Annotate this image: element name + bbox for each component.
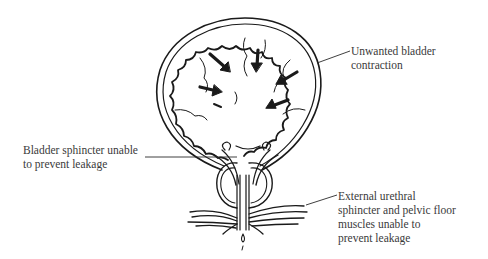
arrow-icon: [266, 99, 288, 108]
bladder-outer-wall-inner: [163, 24, 316, 166]
arrow-icon: [200, 85, 222, 96]
arrow-icon: [214, 104, 221, 107]
arrow-icon: [276, 72, 297, 84]
leak-drop: [242, 234, 245, 242]
label-external-sphincter: External urethral sphincter and pelvic f…: [338, 189, 456, 245]
label-unwanted-contraction: Unwanted bladder contraction: [351, 44, 436, 72]
leader-line-external: [306, 195, 337, 205]
pelvic-floor-right: [249, 206, 307, 226]
contraction-arrows: [200, 50, 297, 108]
pelvic-floor-left: [188, 211, 237, 228]
label-bladder-sphincter: Bladder sphincter unable to prevent leak…: [23, 143, 138, 171]
bladder-diagram: Unwanted bladder contraction Bladder sph…: [0, 0, 488, 259]
leader-line-contraction: [317, 51, 350, 63]
arrow-icon: [210, 54, 230, 72]
